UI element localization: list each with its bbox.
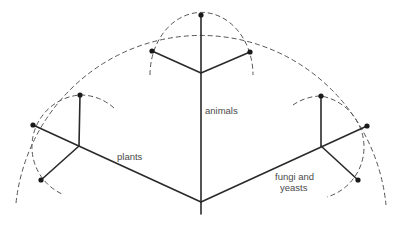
node-fungi-bottom [355, 177, 360, 182]
node-plants-left [30, 122, 35, 127]
label-animals: animals [205, 105, 238, 116]
node-fungi-top [318, 93, 323, 98]
tree-diagram: animals plants fungi and yeasts [0, 0, 403, 227]
fungi-bottom-twig [321, 146, 358, 180]
label-plants: plants [117, 151, 143, 162]
label-fungi-line2: yeasts [280, 182, 308, 193]
plants-branch [33, 125, 201, 202]
plants-dashed-arc [32, 95, 114, 194]
plants-bottom-twig [41, 146, 79, 180]
node-animals-top [198, 12, 203, 17]
node-animals-right [247, 49, 252, 54]
plants-top-twig [79, 95, 80, 146]
node-plants-top [77, 92, 82, 97]
node-fungi-right [364, 123, 369, 128]
animals-right-twig [201, 52, 250, 73]
animals-left-twig [152, 51, 201, 73]
node-plants-bottom [38, 177, 43, 182]
label-fungi-line1: fungi and [275, 171, 314, 182]
node-animals-left [149, 48, 154, 53]
